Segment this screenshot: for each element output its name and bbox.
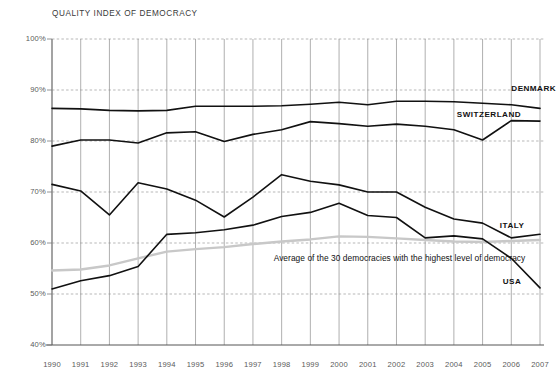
y-axis-tick-label: 60% [12, 238, 46, 247]
series-label-denmark: DENMARK [511, 84, 556, 93]
series-label-switzerland: SWITZERLAND [457, 110, 521, 119]
series-line [52, 203, 540, 289]
average-series-annotation: Average of the 30 democracies with the h… [274, 253, 526, 263]
series-label-usa: USA [503, 277, 522, 286]
y-axis-tick-label: 80% [12, 136, 46, 145]
series-label-italy: ITALY [500, 221, 525, 230]
series-line [52, 175, 540, 238]
series-line [52, 121, 540, 147]
y-axis-tick-label: 50% [12, 289, 46, 298]
y-axis-tick-label: 70% [12, 187, 46, 196]
y-axis-tick-label: 100% [12, 34, 46, 43]
chart-plot-area [0, 0, 557, 389]
democracy-quality-index-chart: QUALITY INDEX OF DEMOCRACY 100%90%80%70%… [0, 0, 557, 389]
y-axis-tick-label: 90% [12, 85, 46, 94]
x-axis-tick-label: 2007 [523, 360, 557, 369]
y-axis-tick-label: 40% [12, 340, 46, 349]
